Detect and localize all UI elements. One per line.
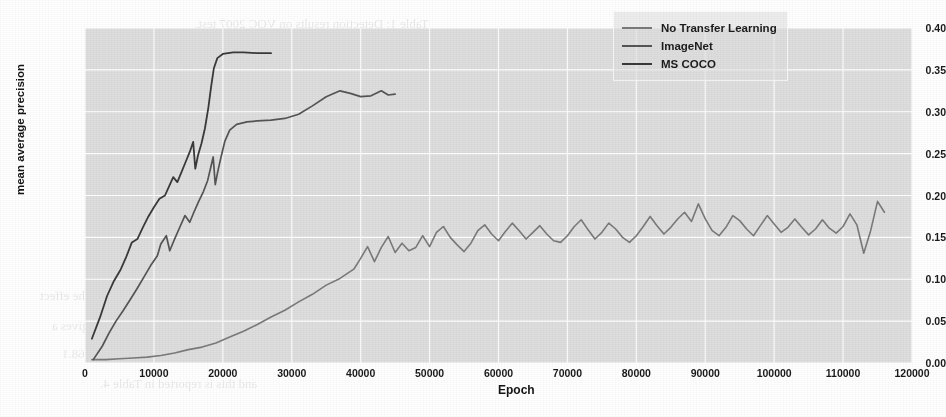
y-tick-label: 0.25 xyxy=(874,148,946,160)
y-tick-label: 0.30 xyxy=(874,106,946,118)
legend-item[interactable]: MS COCO xyxy=(622,55,777,73)
chart-legend: No Transfer LearningImageNetMS COCO xyxy=(613,11,788,81)
y-axis-label: mean average precision xyxy=(14,64,26,195)
x-tick-label: 70000 xyxy=(553,367,582,379)
legend-color-swatch xyxy=(622,45,652,47)
x-tick-label: 50000 xyxy=(415,367,444,379)
x-axis-label: Epoch xyxy=(498,383,535,397)
legend-item-label: No Transfer Learning xyxy=(661,22,777,34)
series-line xyxy=(93,91,395,360)
chart-figure: Table 1: Detection results on VOC 2007 t… xyxy=(0,0,946,417)
x-tick-label: 40000 xyxy=(346,367,375,379)
x-tick-label: 120000 xyxy=(894,367,929,379)
x-tick-label: 10000 xyxy=(139,367,168,379)
y-tick-label: 0.20 xyxy=(874,190,946,202)
legend-color-swatch xyxy=(622,63,652,65)
legend-item-label: MS COCO xyxy=(661,58,716,70)
legend-item[interactable]: ImageNet xyxy=(622,37,777,55)
x-tick-label: 90000 xyxy=(691,367,720,379)
x-tick-label: 30000 xyxy=(277,367,306,379)
plot-area xyxy=(85,28,912,363)
y-tick-label: 0.10 xyxy=(874,273,946,285)
legend-item[interactable]: No Transfer Learning xyxy=(622,19,777,37)
x-tick-label: 20000 xyxy=(208,367,237,379)
legend-color-swatch xyxy=(622,27,652,29)
series-line xyxy=(92,201,885,359)
legend-item-label: ImageNet xyxy=(661,40,713,52)
x-tick-label: 80000 xyxy=(622,367,651,379)
x-tick-label: 110000 xyxy=(826,367,860,379)
x-tick-label: 60000 xyxy=(484,367,513,379)
plot-canvas xyxy=(85,28,912,363)
y-tick-label: 0.05 xyxy=(874,315,946,327)
y-tick-label: 0.15 xyxy=(874,231,946,243)
x-tick-label: 100000 xyxy=(757,367,792,379)
x-tick-label: 0 xyxy=(82,367,88,379)
y-tick-label: 0.35 xyxy=(874,64,946,76)
y-tick-label: 0.40 xyxy=(874,22,946,34)
